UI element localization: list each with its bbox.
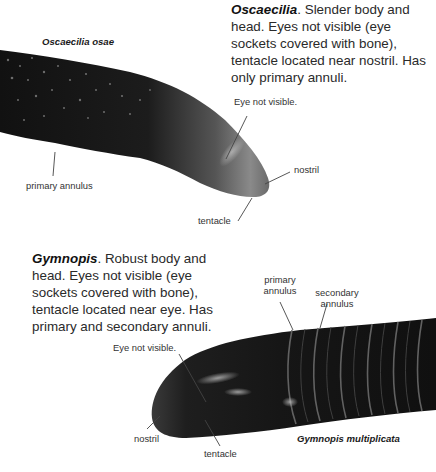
caption-oscaecilia: Oscaecilia. Slender body and head. Eyes …: [231, 1, 436, 86]
label-primary-annulus-bottom: primary annulus: [258, 274, 302, 296]
oscaecilia-body: [0, 50, 269, 197]
secondary-annulus-line1: secondary: [310, 287, 364, 298]
caption-gymnopis: Gymnopis. Robust body and head. Eyes not…: [32, 250, 232, 335]
caption-genus-oscaecilia: Oscaecilia: [231, 2, 297, 17]
label-primary-annulus-top: primary annulus: [26, 180, 93, 191]
label-nostril-bottom: nostril: [134, 433, 159, 444]
species-label-gymnopis-multiplicata: Gymnopis multiplicata: [297, 433, 400, 444]
caption-genus-gymnopis: Gymnopis: [32, 251, 97, 266]
label-nostril-top: nostril: [294, 164, 319, 175]
label-tentacle-bottom: tentacle: [204, 448, 237, 459]
gymnopis-body: [152, 318, 436, 438]
label-eye-not-visible-bottom: Eye not visible.: [113, 342, 176, 353]
label-secondary-annulus-bottom: secondary annulus: [310, 287, 364, 309]
label-tentacle-top: tentacle: [198, 215, 231, 226]
primary-annulus-line1: primary: [258, 274, 302, 285]
species-label-oscaecilia-osae: Oscaecilia osae: [42, 36, 114, 47]
secondary-annulus-line2: annulus: [310, 298, 364, 309]
label-eye-not-visible-top: Eye not visible.: [234, 96, 297, 107]
primary-annulus-line2: annulus: [258, 285, 302, 296]
